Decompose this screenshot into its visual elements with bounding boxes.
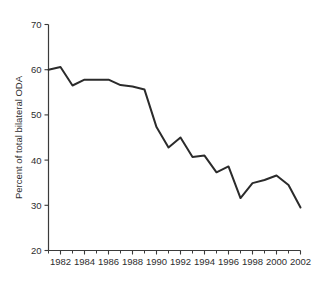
x-tick-label: 1998 <box>242 256 263 267</box>
y-tick-label: 20 <box>31 245 42 256</box>
y-axis-title-text: Percent of total bilateral ODA <box>13 75 24 199</box>
x-tick-label: 1982 <box>50 256 71 267</box>
x-tick-label: 1986 <box>98 256 119 267</box>
y-tick-label: 50 <box>31 109 42 120</box>
line-chart: 203040506070 198219841986198819901992199… <box>0 0 332 293</box>
data-series-line <box>49 67 301 208</box>
y-tick-label: 30 <box>31 200 42 211</box>
y-axis <box>45 25 49 251</box>
chart-canvas: 203040506070 198219841986198819901992199… <box>0 0 332 293</box>
y-tick-label: 70 <box>31 19 42 30</box>
x-tick-label: 2000 <box>266 256 287 267</box>
x-axis <box>49 251 301 255</box>
y-tick-labels: 203040506070 <box>31 19 42 256</box>
x-tick-label: 2002 <box>290 256 311 267</box>
y-tick-label: 40 <box>31 155 42 166</box>
x-tick-label: 1984 <box>74 256 95 267</box>
x-tick-label: 1988 <box>122 256 143 267</box>
x-tick-label: 1992 <box>170 256 191 267</box>
x-tick-label: 1996 <box>218 256 239 267</box>
x-tick-label: 1994 <box>194 256 215 267</box>
y-tick-label: 60 <box>31 64 42 75</box>
x-tick-labels: 1982198419861988199019921994199619982000… <box>50 256 311 267</box>
x-tick-label: 1990 <box>146 256 167 267</box>
y-axis-title: Percent of total bilateral ODA <box>13 75 24 199</box>
series-path <box>49 67 301 208</box>
